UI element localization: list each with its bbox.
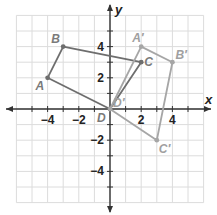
vertex-point xyxy=(61,44,66,49)
coordinate-plane: xy −4−22442−2−4 ABCDA′B′C′D′ xyxy=(0,0,217,215)
y-axis-label: y xyxy=(114,2,123,17)
vertex-point xyxy=(170,60,175,65)
y-tick-label: 2 xyxy=(97,71,104,85)
x-axis-left-arrow-icon xyxy=(6,106,13,112)
point-label-a-prime: A′ xyxy=(131,31,145,45)
point-label-d-prime: D′ xyxy=(113,96,126,110)
y-axis-down-arrow-icon xyxy=(107,206,113,213)
x-tick-label: −4 xyxy=(41,113,55,127)
point-label-c-prime: C′ xyxy=(159,142,172,156)
vertex-point xyxy=(139,60,144,65)
point-label-a: A xyxy=(35,79,45,93)
vertex-point xyxy=(45,75,50,80)
y-tick-label: −4 xyxy=(90,164,104,178)
vertex-point xyxy=(108,107,113,112)
x-tick-label: 4 xyxy=(169,113,176,127)
y-axis-up-arrow-icon xyxy=(107,4,113,11)
y-tick-label: 4 xyxy=(97,40,104,54)
vertex-point xyxy=(139,44,144,49)
point-label-b: B xyxy=(51,32,60,46)
x-tick-label: 2 xyxy=(138,113,145,127)
point-label-c: C xyxy=(144,55,153,69)
y-tick-label: −2 xyxy=(90,133,104,147)
x-tick-label: −2 xyxy=(72,113,86,127)
x-axis-label: x xyxy=(204,92,213,107)
point-label-d: D xyxy=(97,111,106,125)
point-label-b-prime: B′ xyxy=(175,48,188,62)
